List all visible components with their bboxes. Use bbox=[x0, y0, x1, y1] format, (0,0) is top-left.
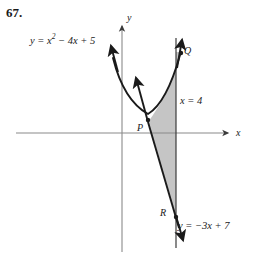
parabola-equation-prefix: y = x bbox=[30, 35, 52, 46]
line-upper-arrow-icon bbox=[136, 78, 148, 122]
point-marker-p bbox=[146, 118, 150, 122]
point-label-r: R bbox=[160, 208, 166, 218]
parabola-equation-suffix: − 4x + 5 bbox=[55, 35, 95, 46]
point-label-p: P bbox=[137, 123, 143, 133]
parabola-equation-label: y = x2 − 4x + 5 bbox=[30, 33, 95, 46]
problem-number: 67. bbox=[6, 6, 22, 19]
point-marker-q bbox=[179, 51, 183, 55]
axis-label-y: y bbox=[127, 13, 131, 23]
point-label-q: Q bbox=[184, 46, 191, 56]
point-marker-r bbox=[174, 215, 178, 219]
line-equation-label: y = −3x + 7 bbox=[178, 221, 230, 232]
axis-label-x: x bbox=[236, 128, 240, 138]
parabola-left-arrow-icon bbox=[111, 46, 118, 72]
vertical-line-label: x = 4 bbox=[180, 96, 202, 107]
figure-container: 67. y = x2 − 4x + 5 y = −3x + 7 x = 4 y … bbox=[0, 0, 260, 262]
